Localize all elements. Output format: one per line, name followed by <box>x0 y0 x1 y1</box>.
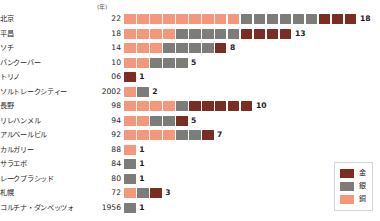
medal-cell-silver <box>137 188 149 198</box>
medal-cell-silver <box>137 87 149 97</box>
table-row: 平昌1813 <box>0 27 380 42</box>
chart-rows: 北京2218平昌1813ソチ148バンクーバー105トリノ061ソルトレークシテ… <box>0 12 380 215</box>
medal-cell-gold <box>345 14 357 24</box>
medal-cell-bronze <box>137 130 149 140</box>
medal-cell-bronze <box>163 101 175 111</box>
medal-bar: 18 <box>124 14 380 24</box>
row-total: 10 <box>256 101 267 111</box>
legend-swatch-icon <box>340 169 354 178</box>
table-row: ソチ148 <box>0 41 380 56</box>
legend-swatch-icon <box>340 182 354 191</box>
medal-cell-bronze <box>124 14 136 24</box>
medal-cell-gold <box>228 101 240 111</box>
medal-cell-bronze <box>150 101 162 111</box>
city-label: アルベールビル <box>0 130 100 140</box>
table-row: 北京2218 <box>0 12 380 27</box>
legend-item: 銅 <box>340 193 366 206</box>
row-total: 8 <box>230 43 235 53</box>
medal-cell-bronze <box>189 14 201 24</box>
legend-swatch-icon <box>340 195 354 204</box>
city-label: 北京 <box>0 14 100 24</box>
row-total: 18 <box>360 14 371 24</box>
table-row: サラエボ841 <box>0 157 380 172</box>
year-label: 22 <box>100 14 124 24</box>
medal-bar: 1 <box>124 145 380 155</box>
medal-cell-silver <box>228 29 240 39</box>
row-total: 5 <box>191 58 196 68</box>
medal-cell-bronze <box>137 101 149 111</box>
medal-cell-silver <box>124 174 136 184</box>
medal-cell-bronze <box>150 14 162 24</box>
medal-cell-bronze <box>163 14 175 24</box>
medal-cell-gold <box>215 101 227 111</box>
city-label: ソチ <box>0 43 100 53</box>
medal-cell-bronze <box>124 43 136 53</box>
legend-item: 金 <box>340 167 366 180</box>
medal-cell-gold <box>267 29 279 39</box>
medal-cell-silver <box>189 29 201 39</box>
medal-cell-bronze <box>137 43 149 53</box>
medal-bar: 8 <box>124 43 380 53</box>
city-label: カルガリー <box>0 145 100 155</box>
medal-cell-bronze <box>124 58 136 68</box>
medal-cell-bronze <box>137 14 149 24</box>
city-label: ソルトレークシティー <box>0 87 100 97</box>
medal-cell-gold <box>241 101 253 111</box>
table-row: バンクーバー105 <box>0 56 380 71</box>
medal-cell-bronze <box>215 14 227 24</box>
year-label: 06 <box>100 72 124 82</box>
medal-cell-gold <box>202 130 214 140</box>
medal-tally-chart: (年) 北京2218平昌1813ソチ148バンクーバー105トリノ061ソルトレ… <box>0 0 380 221</box>
table-row: 長野9810 <box>0 99 380 114</box>
legend-label: 銅 <box>359 195 366 204</box>
medal-cell-silver <box>163 116 175 126</box>
medal-cell-silver <box>176 58 188 68</box>
medal-cell-silver <box>176 29 188 39</box>
medal-cell-bronze <box>137 29 149 39</box>
medal-bar: 5 <box>124 116 380 126</box>
medal-cell-gold <box>319 14 331 24</box>
medal-cell-bronze <box>150 29 162 39</box>
medal-cell-bronze <box>202 14 214 24</box>
year-label: 94 <box>100 116 124 126</box>
medal-cell-bronze <box>124 116 136 126</box>
medal-cell-bronze <box>124 188 136 198</box>
city-label: 札幌 <box>0 188 100 198</box>
medal-cell-silver <box>254 14 266 24</box>
city-label: バンクーバー <box>0 58 100 68</box>
row-total: 7 <box>217 130 222 140</box>
medal-cell-silver <box>189 130 201 140</box>
medal-cell-silver <box>280 14 292 24</box>
medal-cell-bronze <box>137 58 149 68</box>
medal-cell-silver <box>306 14 318 24</box>
medal-cell-silver <box>124 203 136 213</box>
row-total: 1 <box>139 145 144 155</box>
medal-cell-bronze <box>124 130 136 140</box>
year-label: 72 <box>100 188 124 198</box>
row-total: 1 <box>139 72 144 82</box>
row-total: 13 <box>295 29 306 39</box>
medal-cell-silver <box>202 29 214 39</box>
legend-label: 金 <box>359 169 366 178</box>
table-row: リレハンメル945 <box>0 114 380 129</box>
medal-cell-silver <box>176 130 188 140</box>
city-label: サラエボ <box>0 159 100 169</box>
medal-bar: 13 <box>124 29 380 39</box>
medal-cell-gold <box>254 29 266 39</box>
table-row: ソルトレークシティー20022 <box>0 85 380 100</box>
medal-cell-silver <box>163 43 175 53</box>
medal-cell-bronze <box>124 29 136 39</box>
city-label: レークプラシッド <box>0 174 100 184</box>
city-label: コルチナ・ダンペッツォ <box>0 203 100 213</box>
legend-item: 銀 <box>340 180 366 193</box>
medal-cell-bronze <box>176 14 188 24</box>
table-row: トリノ061 <box>0 70 380 85</box>
medal-bar: 7 <box>124 130 380 140</box>
row-total: 1 <box>139 159 144 169</box>
medal-cell-bronze <box>228 14 240 24</box>
medal-cell-bronze <box>124 101 136 111</box>
table-row: アルベールビル927 <box>0 128 380 143</box>
chart-legend: 金銀銅 <box>334 162 373 211</box>
medal-cell-gold <box>215 43 227 53</box>
year-label: 88 <box>100 145 124 155</box>
